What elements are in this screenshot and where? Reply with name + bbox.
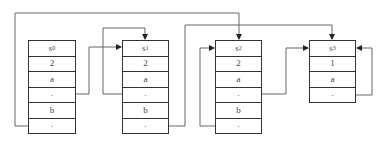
frame-cell: · [310,88,355,104]
frame-cell: b [29,103,75,119]
activation-frame-2: s2 2 a · b · [215,40,262,134]
activation-frame-1: s1 2 a · b · [122,40,169,134]
frame-cell: · [29,119,75,135]
link-frame0-to-frame1 [76,47,121,94]
frame-cell: 2 [123,57,168,73]
frame-cell: a [29,72,75,88]
frame-subscript: 2 [239,45,242,51]
frame-header: s2 [216,41,261,57]
frame-subscript: 3 [333,45,336,51]
frame-subscript: 1 [146,45,149,51]
frame-header: s3 [310,41,355,57]
frame-header: s0 [29,41,75,57]
link-frame2-to-frame3 [262,48,308,94]
activation-frame-0: s0 2 a · b · [28,40,76,134]
link-frame2-self [200,48,215,126]
frame-cell: · [216,88,261,104]
frame-cell: 2 [29,57,75,73]
frame-subscript: 0 [52,45,55,51]
frame-cell: · [123,119,168,135]
frame-cell: b [123,103,168,119]
frame-header: s1 [123,41,168,57]
frame-cell: 1 [310,57,355,73]
frame-cell: a [216,72,261,88]
frame-cell: b [216,103,261,119]
frame-cell: 2 [216,57,261,73]
frame-cell: · [216,119,261,135]
activation-frame-3: s3 1 a · [309,40,356,103]
frame-cell: a [123,72,168,88]
frame-cell: a [310,72,355,88]
link-frame3-self [356,48,372,95]
frame-cell: · [123,88,168,104]
frame-cell: · [29,88,75,104]
